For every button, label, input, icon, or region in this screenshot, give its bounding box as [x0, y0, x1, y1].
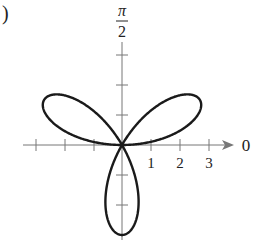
- tick-label-3: 3: [205, 155, 213, 171]
- figure-corner-label: ): [2, 2, 9, 25]
- polar-plot: ) π 2 0 1 2 3: [0, 0, 255, 242]
- tick-label-1: 1: [147, 155, 155, 171]
- polar-axis-label: 0: [242, 136, 251, 155]
- angle-label-denominator: 2: [118, 23, 126, 40]
- vertical-axis: [116, 42, 128, 240]
- tick-label-2: 2: [176, 155, 184, 171]
- polar-graph-figure: ) π 2 0 1 2 3: [0, 0, 255, 242]
- angle-label-numerator: π: [118, 2, 127, 19]
